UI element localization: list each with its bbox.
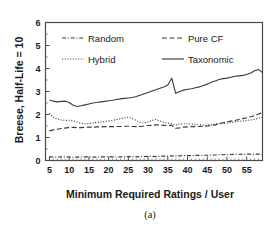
y-tick-label: 6 xyxy=(35,18,40,28)
x-tick-label: 20 xyxy=(104,165,114,175)
series-line-random xyxy=(49,154,262,157)
x-tick-label: 45 xyxy=(202,165,212,175)
x-tick-label: 5 xyxy=(47,165,52,175)
x-tick-label: 15 xyxy=(84,165,94,175)
y-tick-label: 4 xyxy=(35,64,40,74)
chart-legend: RandomPure CFHybridTaxonomic xyxy=(62,33,234,65)
x-tick-label: 10 xyxy=(64,165,74,175)
y-tick-label: 5 xyxy=(35,41,40,51)
x-tick-label: 50 xyxy=(222,165,232,175)
legend-label-taxonomic: Taxonomic xyxy=(188,54,234,65)
figure-page: 5101520253035404550550123456 RandomPure … xyxy=(0,0,279,234)
legend-label-hybrid: Hybrid xyxy=(88,54,115,65)
x-tick-label: 40 xyxy=(183,165,193,175)
x-tick-label: 30 xyxy=(143,165,153,175)
x-tick-label: 55 xyxy=(242,165,252,175)
x-axis-label: Minimum Required Ratings / User xyxy=(34,188,266,200)
series-line-hybrid xyxy=(49,113,262,125)
chart-figure: 5101520253035404550550123456 RandomPure … xyxy=(0,0,279,234)
y-tick-label: 1 xyxy=(35,133,40,143)
legend-label-pure-cf: Pure CF xyxy=(188,33,224,44)
y-tick-label: 3 xyxy=(35,87,40,97)
series-line-pure-cf xyxy=(49,113,262,131)
x-tick-label: 25 xyxy=(123,165,133,175)
axes-group: 5101520253035404550550123456 xyxy=(35,18,262,175)
y-tick-label: 0 xyxy=(35,156,40,166)
plot-frame xyxy=(46,23,263,161)
legend-label-random: Random xyxy=(88,33,124,44)
series-line-taxonomic xyxy=(49,69,262,106)
data-series-group xyxy=(49,69,262,157)
y-axis-label: Breese, Half-Life = 10 xyxy=(13,15,25,165)
y-tick-label: 2 xyxy=(35,110,40,120)
x-tick-label: 35 xyxy=(163,165,173,175)
figure-caption: (a) xyxy=(34,209,266,220)
